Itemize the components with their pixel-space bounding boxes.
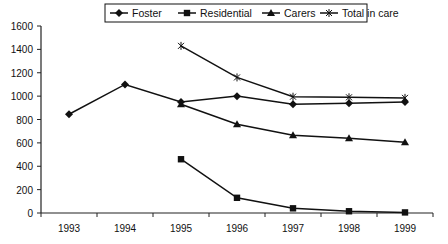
y-tick-label: 1600 bbox=[11, 21, 34, 32]
x-tick-label: 1996 bbox=[226, 223, 249, 234]
square-marker bbox=[234, 195, 240, 201]
y-tick-label: 400 bbox=[16, 161, 33, 172]
square-marker bbox=[346, 208, 352, 214]
square-marker bbox=[402, 209, 408, 215]
diamond-marker bbox=[233, 92, 241, 100]
series-total-in-care bbox=[178, 42, 408, 102]
legend-item-label: Residential bbox=[200, 7, 252, 19]
legend: FosterResidentialCarersTotal in care bbox=[105, 4, 399, 22]
y-tick-label: 1200 bbox=[11, 68, 34, 79]
legend-item-label: Foster bbox=[132, 7, 162, 19]
square-marker bbox=[184, 10, 190, 16]
x-tick-label: 1997 bbox=[282, 223, 305, 234]
x-marker bbox=[178, 42, 184, 50]
x-tick-label: 1994 bbox=[114, 223, 137, 234]
y-tick-label: 1000 bbox=[11, 91, 34, 102]
series-residential bbox=[178, 156, 408, 216]
y-tick-label: 600 bbox=[16, 138, 33, 149]
y-tick-label: 800 bbox=[16, 115, 33, 126]
line-chart: 0200400600800100012001400160019931994199… bbox=[0, 0, 448, 244]
x-tick-label: 1998 bbox=[338, 223, 361, 234]
diamond-marker bbox=[121, 80, 129, 88]
x-tick-label: 1993 bbox=[58, 223, 81, 234]
diamond-marker bbox=[289, 100, 297, 108]
legend-item-label: Carers bbox=[284, 7, 316, 19]
axes: 0200400600800100012001400160019931994199… bbox=[11, 21, 433, 234]
y-tick-label: 1400 bbox=[11, 44, 34, 55]
y-tick-label: 0 bbox=[27, 208, 33, 219]
square-marker bbox=[178, 156, 184, 162]
x-tick-label: 1999 bbox=[394, 223, 417, 234]
x-tick-label: 1995 bbox=[170, 223, 193, 234]
series-lines bbox=[65, 42, 409, 216]
y-tick-label: 200 bbox=[16, 185, 33, 196]
diamond-marker bbox=[65, 110, 73, 118]
legend-item-label: Total in care bbox=[342, 7, 399, 19]
series-foster bbox=[65, 80, 409, 118]
square-marker bbox=[290, 205, 296, 211]
